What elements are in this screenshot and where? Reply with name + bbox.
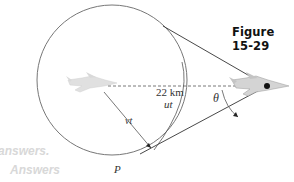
theta-label: θ (213, 91, 219, 106)
point-p-label: P (114, 163, 121, 175)
vt-arrowhead-icon (146, 143, 151, 148)
watermark-line1: answers. (0, 144, 49, 158)
left-plane-icon (66, 72, 117, 92)
watermark-line2: Answers (10, 163, 60, 177)
right-plane-icon (229, 72, 289, 96)
distance-label: 22 km (156, 86, 184, 98)
plane-position-dot (264, 83, 270, 89)
figure-canvas: Figure 15-29 22 km ut vt θ P answers. An… (0, 0, 294, 182)
sound-wavefront-circle (37, 5, 187, 155)
vt-label: vt (125, 115, 132, 126)
ut-label: ut (164, 98, 173, 110)
figure-title: Figure 15-29 (232, 25, 294, 53)
